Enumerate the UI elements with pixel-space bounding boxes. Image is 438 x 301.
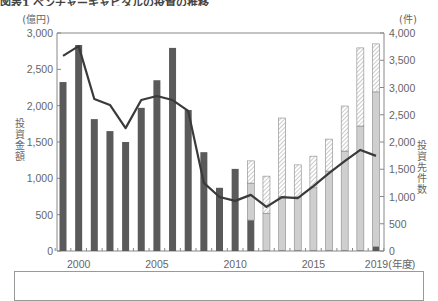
bar-light-2015 [310, 188, 317, 250]
left-tick-label: 2,000 [27, 100, 53, 112]
bar-dark-2000 [75, 45, 82, 251]
left-tick-label: 1,000 [27, 172, 53, 184]
bar-hatched-2014 [294, 165, 301, 197]
bar-light-2016 [326, 171, 333, 250]
right-axis-title: 投資先件数 [415, 140, 425, 195]
right-tick-label: 1,500 [389, 163, 415, 175]
bar-light-2014 [294, 197, 301, 250]
bar-light-2019 [373, 92, 380, 247]
x-tick-label: 2000 [67, 258, 91, 270]
left-tick-label: 0 [47, 245, 53, 257]
legend-box [14, 271, 424, 301]
right-tick-label: 1,000 [389, 191, 415, 203]
bar-dark-2004 [138, 108, 145, 251]
bar-dark-2007 [185, 110, 192, 251]
bar-dark-2003 [122, 142, 129, 251]
bar-light-2012 [263, 213, 270, 250]
x-tick-label: 2019(年度) [365, 258, 415, 270]
left-axis-unit: (億円) [22, 13, 50, 25]
bar-dark-2002 [106, 131, 113, 251]
right-axis-unit: (件) [399, 14, 417, 25]
left-tick-label: 500 [35, 209, 53, 221]
bar-dark-1999 [60, 82, 67, 251]
bar-hatched-2018 [357, 48, 364, 126]
bar-dark-2019 [373, 247, 380, 251]
right-tick-label: 3,000 [389, 82, 415, 94]
x-tick-label: 2005 [145, 258, 169, 270]
bar-dark-2010 [232, 169, 239, 251]
bar-dark-2006 [169, 48, 176, 251]
bar-dark-2001 [91, 119, 98, 251]
bar-series [60, 44, 380, 251]
left-tick-label: 1,500 [27, 136, 53, 148]
right-tick-label: 4,000 [389, 27, 415, 39]
bar-light-2011 [247, 183, 254, 220]
bar-light-2017 [341, 151, 348, 250]
bar-dark-2011 [247, 220, 254, 251]
bar-dark-2005 [153, 80, 160, 251]
x-tick-label: 2015 [302, 258, 326, 270]
bar-light-2013 [279, 197, 286, 250]
right-tick-label: 0 [389, 245, 395, 257]
right-tick-label: 500 [389, 218, 407, 230]
left-axis-title: 投資金額 [13, 118, 23, 162]
left-tick-label: 2,500 [27, 63, 53, 75]
bar-hatched-2013 [279, 118, 286, 197]
bar-hatched-2017 [341, 106, 348, 151]
bar-hatched-2019 [373, 44, 380, 92]
right-tick-label: 2,500 [389, 109, 415, 121]
right-tick-label: 3,500 [389, 54, 415, 66]
bar-hatched-2016 [326, 139, 333, 171]
bar-light-2018 [357, 126, 364, 250]
right-tick-label: 2,000 [389, 136, 415, 148]
bar-hatched-2011 [247, 161, 254, 183]
x-tick-label: 2010 [223, 258, 247, 270]
left-tick-label: 3,000 [27, 27, 53, 39]
